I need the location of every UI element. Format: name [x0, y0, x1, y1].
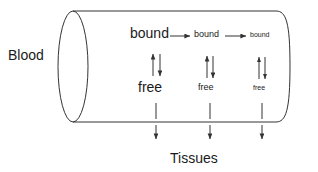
- blood-tissue-diagram: Blood bound bound bound free free free T…: [0, 0, 318, 172]
- cylinder-left-cap: [58, 11, 88, 122]
- equilibrium-arrows-column-3: [259, 57, 265, 79]
- bound-label-1: bound: [130, 26, 169, 40]
- free-label-1: free: [138, 80, 162, 94]
- free-label-3: free: [253, 84, 265, 91]
- bound-label-2: bound: [194, 30, 219, 39]
- free-label-2: free: [198, 83, 214, 92]
- tissues-label: Tissues: [170, 151, 218, 165]
- equilibrium-arrows-column-1: [153, 54, 160, 76]
- equilibrium-arrows-column-2: [207, 56, 213, 78]
- cylinder-body: [58, 11, 290, 122]
- cylinder-right-cap: [276, 11, 290, 122]
- blood-compartment-label: Blood: [8, 48, 44, 62]
- bound-label-3: bound: [250, 31, 269, 38]
- tissue-efflux-arrows: [156, 103, 262, 139]
